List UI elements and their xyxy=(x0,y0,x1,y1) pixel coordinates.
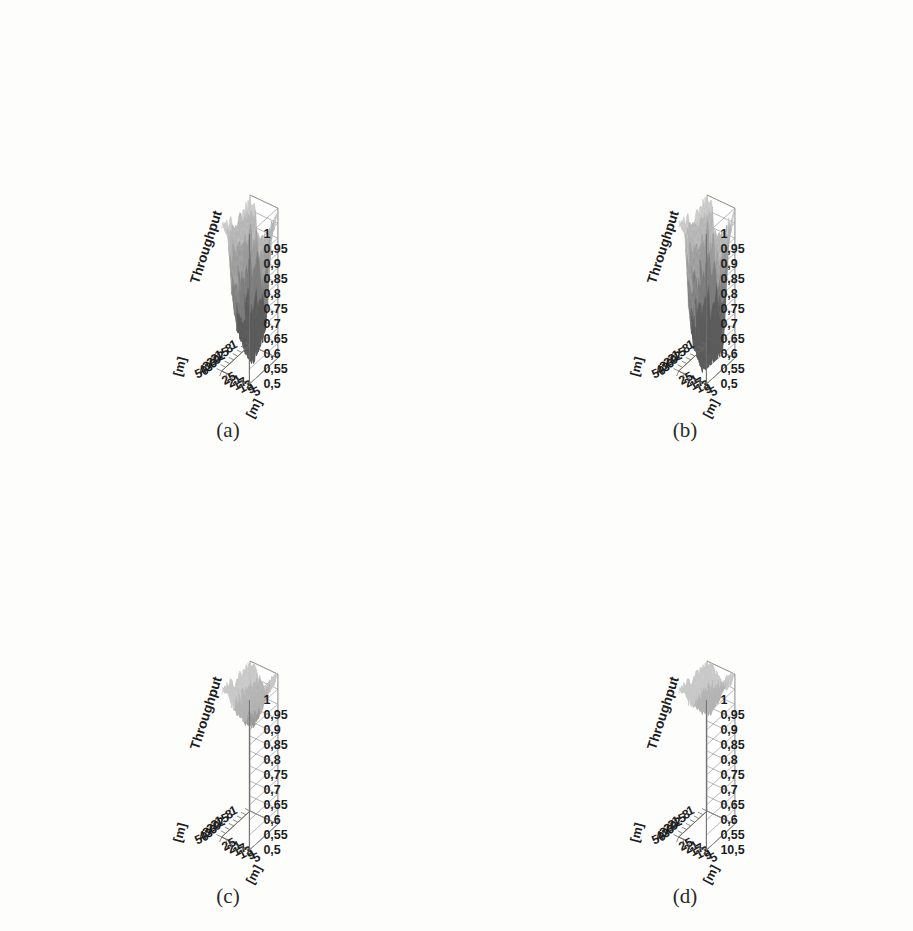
z-tick-label: 0,55 xyxy=(720,362,744,376)
y-tick-mark xyxy=(678,365,683,368)
z-tick-label: 1 xyxy=(263,227,270,241)
y-tick-mark xyxy=(682,827,687,830)
y-tick-mark xyxy=(229,823,234,826)
z-tick-label: 1 xyxy=(720,227,727,241)
y-tick-mark xyxy=(233,354,238,357)
z-tick-label: 0,9 xyxy=(720,257,737,271)
z-tick-label: 0,6 xyxy=(263,813,280,827)
z-tick-label: 0,8 xyxy=(263,753,280,767)
y-axis-title: [m] xyxy=(628,821,647,843)
z-tick-label: 0,6 xyxy=(720,813,737,827)
y-tick-mark xyxy=(686,823,691,826)
z-tick-label: 0,55 xyxy=(720,828,744,842)
z-tick-label: 0,65 xyxy=(720,332,744,346)
x-axis-title: [m] xyxy=(243,863,264,886)
y-tick-mark xyxy=(694,816,699,819)
z-axis-title: Throughput xyxy=(187,208,225,285)
z-tick-label: 1 xyxy=(263,693,270,707)
y-tick-mark xyxy=(225,827,230,830)
z-axis-title: Throughput xyxy=(644,674,682,751)
z-tick-label: 0,9 xyxy=(263,257,280,271)
z-tick-label: 0,95 xyxy=(263,242,287,256)
y-tick-mark xyxy=(690,820,695,823)
surface-svg-a: 18152229364350[m]2521171395[m]10,950,90,… xyxy=(0,0,456,420)
z-tick-label: 0,65 xyxy=(720,798,744,812)
z-tick-label: 0,95 xyxy=(720,242,744,256)
y-tick-mark xyxy=(221,831,226,834)
surface-plot-panel-d: 18152229364350[m]2521171395[m]10,950,90,… xyxy=(457,466,913,931)
surface-plot-panel-b: 18152229364350[m]2521171395[m]10,950,90,… xyxy=(457,0,913,465)
z-axis-title: Throughput xyxy=(187,674,225,751)
surface-svg-d: 18152229364350[m]2521171395[m]10,950,90,… xyxy=(457,466,913,886)
y-tick-mark xyxy=(241,812,246,815)
z-tick-label: 0,65 xyxy=(263,798,287,812)
z-tick-label: 0,9 xyxy=(720,723,737,737)
z-tick-label: 0,75 xyxy=(720,302,744,316)
y-tick-mark xyxy=(674,369,679,372)
panel-caption-d: (d) xyxy=(457,884,913,909)
z-tick-label: 0,8 xyxy=(263,287,280,301)
z-tick-label: 0,7 xyxy=(263,317,280,331)
z-tick-label: 0,85 xyxy=(720,272,744,286)
z-tick-label: 1 xyxy=(720,693,727,707)
z-axis-title: Throughput xyxy=(644,208,682,285)
z-tick-label: 0,5 xyxy=(263,377,280,391)
z-tick-label: 0,75 xyxy=(720,768,744,782)
z-tick-label: 0,5 xyxy=(720,377,737,391)
y-tick-mark xyxy=(221,365,226,368)
surface-plot-panel-c: 18152229364350[m]2521171395[m]10,950,90,… xyxy=(0,466,456,931)
z-tick-label: 0,7 xyxy=(720,317,737,331)
z-tick-label: 0,8 xyxy=(720,753,737,767)
z-tick-label: 0,7 xyxy=(263,783,280,797)
z-tick-label: 0,6 xyxy=(263,347,280,361)
z-tick-label: 0,55 xyxy=(263,828,287,842)
y-axis-title: [m] xyxy=(171,821,190,843)
y-axis-title: [m] xyxy=(171,355,190,377)
y-tick-mark xyxy=(229,357,234,360)
y-tick-mark xyxy=(233,820,238,823)
z-tick-label: 0,55 xyxy=(263,362,287,376)
y-tick-mark xyxy=(217,835,222,838)
y-tick-mark xyxy=(682,361,687,364)
y-tick-mark xyxy=(217,369,222,372)
x-axis-title: [m] xyxy=(243,397,264,420)
z-tick-label: 0,85 xyxy=(263,272,287,286)
figure-four-surface-plots: 18152229364350[m]2521171395[m]10,950,90,… xyxy=(0,0,913,931)
surface-plot-panel-a: 18152229364350[m]2521171395[m]10,950,90,… xyxy=(0,0,456,465)
z-tick-label: 0,8 xyxy=(720,287,737,301)
z-tick-label: 0,95 xyxy=(263,708,287,722)
axes: 18152229364350[m]2521171395[m]10,950,90,… xyxy=(171,674,288,886)
y-tick-mark xyxy=(674,835,679,838)
z-tick-label: 0,65 xyxy=(263,332,287,346)
z-tick-label: 0,75 xyxy=(263,768,287,782)
surface-svg-b: 18152229364350[m]2521171395[m]10,950,90,… xyxy=(457,0,913,420)
y-tick-mark xyxy=(698,812,703,815)
y-tick-mark xyxy=(690,354,695,357)
z-tick-label: 10,5 xyxy=(720,843,744,857)
surface-svg-c: 18152229364350[m]2521171395[m]10,950,90,… xyxy=(0,466,456,886)
z-tick-label: 0,95 xyxy=(720,708,744,722)
y-tick-mark xyxy=(225,361,230,364)
y-tick-mark xyxy=(678,831,683,834)
z-tick-label: 0,85 xyxy=(263,738,287,752)
x-axis-title: [m] xyxy=(700,863,721,886)
y-axis-title: [m] xyxy=(628,355,647,377)
y-tick-mark xyxy=(686,357,691,360)
panel-caption-a: (a) xyxy=(0,418,456,443)
z-tick-label: 0,75 xyxy=(263,302,287,316)
y-tick-mark xyxy=(237,816,242,819)
x-axis-title: [m] xyxy=(700,397,721,420)
axes: 18152229364350[m]2521171395[m]10,950,90,… xyxy=(628,674,745,886)
panel-caption-c: (c) xyxy=(0,884,456,909)
panel-caption-b: (b) xyxy=(457,418,913,443)
z-tick-label: 0,5 xyxy=(263,843,280,857)
y-tick-mark xyxy=(237,350,242,353)
z-tick-label: 0,85 xyxy=(720,738,744,752)
z-tick-label: 0,9 xyxy=(263,723,280,737)
z-tick-label: 0,7 xyxy=(720,783,737,797)
z-tick-label: 0,6 xyxy=(720,347,737,361)
